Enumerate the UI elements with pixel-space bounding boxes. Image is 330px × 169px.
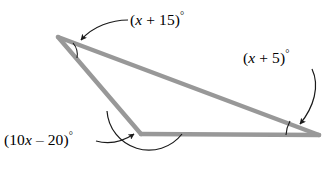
degree-symbol-icon: ° [69,130,73,141]
leader-line-apex [81,20,128,40]
leader-line-bottom-right [300,69,316,124]
angle-label-bottom-right-constant: 5 [272,49,280,66]
angle-label-bottom-right: (x + 5)° [243,50,289,66]
angle-label-bottom-right-operator: + [255,49,272,66]
degree-symbol-icon: ° [180,10,184,21]
geometry-figure: (x + 15)° (x + 5)° (10x – 20)° [0,0,330,169]
leader-line-bottom-left [96,134,134,143]
angle-label-apex-operator: + [142,11,159,28]
angle-label-bottom-left: (10x – 20)° [4,132,73,148]
degree-symbol-icon: ° [285,48,289,59]
angle-label-apex: (x + 15)° [130,12,184,28]
angle-arc-bottom-left [107,111,182,150]
angle-label-bottom-left-operator: – [32,131,48,148]
angle-label-apex-constant: 15 [159,11,175,28]
angle-label-bottom-left-constant: 20 [48,131,64,148]
triangle-side-bottom [141,134,319,135]
angle-label-bottom-left-prefix: (10 [4,131,25,148]
angle-label-bottom-left-variable: x [25,131,32,148]
